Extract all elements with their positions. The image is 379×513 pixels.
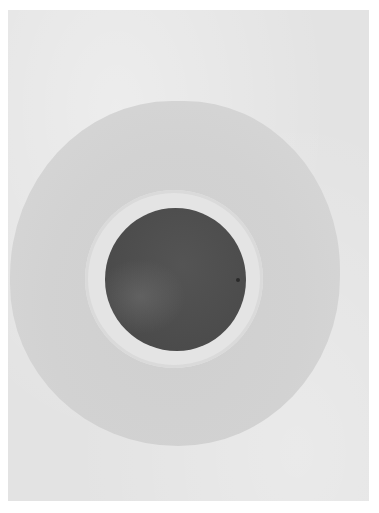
paper-sheet <box>8 10 369 501</box>
ink-speck <box>236 278 240 282</box>
dark-inner-disc <box>105 208 246 351</box>
